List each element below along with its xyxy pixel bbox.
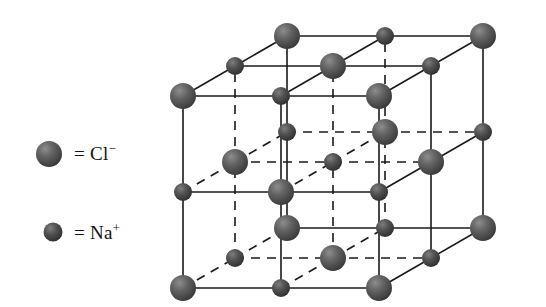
chloride-ion-sphere (320, 53, 346, 79)
sodium-ion-sphere (226, 249, 244, 267)
chloride-ion-sphere (222, 149, 248, 175)
legend-chloride-sphere (36, 141, 62, 167)
chloride-ion-sphere (418, 149, 444, 175)
chloride-ion-sphere (170, 83, 196, 109)
sodium-ion-sphere (474, 123, 492, 141)
legend-sodium-charge: + (113, 221, 120, 235)
legend-chloride-symbol: Cl (90, 143, 109, 164)
chloride-ion-sphere (274, 23, 300, 49)
legend-chloride-charge: − (109, 142, 116, 156)
legend-sodium-symbol: Na (90, 222, 113, 243)
legend-chloride-label: = Cl− (74, 142, 116, 165)
chloride-ion-sphere (170, 275, 196, 301)
legend-chloride-equals: = (74, 143, 85, 164)
chloride-ion-sphere (366, 83, 392, 109)
chloride-ion-sphere (320, 245, 346, 271)
chloride-ion-sphere (470, 23, 496, 49)
sodium-ion-sphere (370, 183, 388, 201)
chloride-ion-sphere (268, 179, 294, 205)
sodium-ion-sphere (278, 123, 296, 141)
sodium-ion-sphere (226, 57, 244, 75)
sodium-ion-sphere (272, 279, 290, 297)
sodium-ion-sphere (376, 27, 394, 45)
sodium-ion-sphere (376, 219, 394, 237)
legend-sodium-sphere (44, 223, 63, 242)
legend-sodium-equals: = (74, 222, 85, 243)
chloride-ion-sphere (366, 275, 392, 301)
sodium-ion-sphere (422, 249, 440, 267)
sodium-ion-sphere (174, 183, 192, 201)
sodium-ion-sphere (324, 153, 342, 171)
legend-markers (36, 141, 63, 242)
legend-sodium-label: = Na+ (74, 221, 120, 244)
lattice-atoms (170, 23, 496, 301)
sodium-ion-sphere (422, 57, 440, 75)
sodium-ion-sphere (272, 87, 290, 105)
crystal-lattice-figure: = Cl− = Na+ (0, 0, 546, 307)
chloride-ion-sphere (274, 215, 300, 241)
chloride-ion-sphere (372, 119, 398, 145)
chloride-ion-sphere (470, 215, 496, 241)
